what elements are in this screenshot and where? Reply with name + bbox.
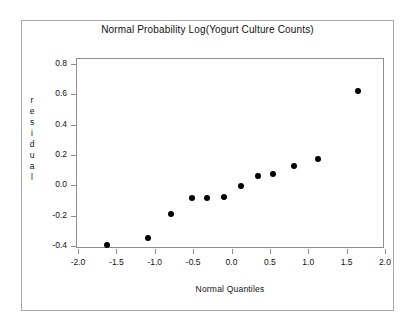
data-point: [270, 171, 276, 177]
x-axis-tick-mark: [232, 249, 233, 254]
data-point: [355, 88, 361, 94]
x-axis-tick-label: 1.5: [327, 257, 367, 267]
chart-title: Normal Probability Log(Yogurt Culture Co…: [21, 24, 394, 35]
y-axis-tick-mark: [71, 125, 76, 126]
data-point: [145, 235, 151, 241]
y-axis-title-letter: a: [25, 161, 39, 172]
x-axis-tick-label: -1.5: [96, 257, 136, 267]
y-axis-tick-mark: [71, 246, 76, 247]
y-axis-tick-mark: [71, 64, 76, 65]
y-axis-tick-label: 0.2: [27, 149, 67, 159]
data-point: [168, 211, 174, 217]
x-axis-tick-mark: [270, 249, 271, 254]
y-axis-tick-mark: [71, 185, 76, 186]
data-point: [189, 195, 195, 201]
y-axis-title-letter: e: [25, 106, 39, 117]
y-axis-tick-label: 0.0: [27, 179, 67, 189]
x-axis-tick-label: -0.5: [173, 257, 213, 267]
figure-canvas: Normal Probability Log(Yogurt Culture Co…: [0, 0, 412, 326]
y-axis-tick-label: 0.8: [27, 58, 67, 68]
scatter-series: [77, 59, 383, 247]
y-axis-tick-label: 0.4: [27, 119, 67, 129]
data-point: [291, 163, 297, 169]
x-axis-tick-label: -2.0: [58, 257, 98, 267]
y-axis-title-letter: i: [25, 128, 39, 139]
x-axis-tick-label: 1.0: [288, 257, 328, 267]
x-axis-tick-mark: [193, 249, 194, 254]
y-axis-tick-label: -0.2: [27, 210, 67, 220]
data-point: [255, 173, 261, 179]
x-axis-tick-mark: [155, 249, 156, 254]
y-axis-tick-mark: [71, 216, 76, 217]
y-axis-tick-mark: [71, 94, 76, 95]
data-point: [315, 156, 321, 162]
data-point: [238, 183, 244, 189]
y-axis-tick-label: -0.4: [27, 240, 67, 250]
x-axis-tick-label: 0.5: [250, 257, 290, 267]
x-axis-tick-mark: [116, 249, 117, 254]
x-axis-tick-mark: [347, 249, 348, 254]
data-point: [221, 194, 227, 200]
x-axis-tick-mark: [308, 249, 309, 254]
x-axis-tick-label: 2.0: [365, 257, 405, 267]
x-axis-tick-label: 0.0: [212, 257, 252, 267]
y-axis-tick-label: 0.6: [27, 88, 67, 98]
data-point: [104, 242, 110, 248]
x-axis-tick-mark: [385, 249, 386, 254]
x-axis-title: Normal Quantiles: [76, 284, 384, 294]
y-axis-title: r e s i d u a l: [25, 95, 39, 183]
plot-panel: [76, 58, 384, 248]
x-axis-tick-mark: [78, 249, 79, 254]
y-axis-tick-mark: [71, 155, 76, 156]
x-axis-tick-label: -1.0: [135, 257, 175, 267]
data-point: [204, 195, 210, 201]
